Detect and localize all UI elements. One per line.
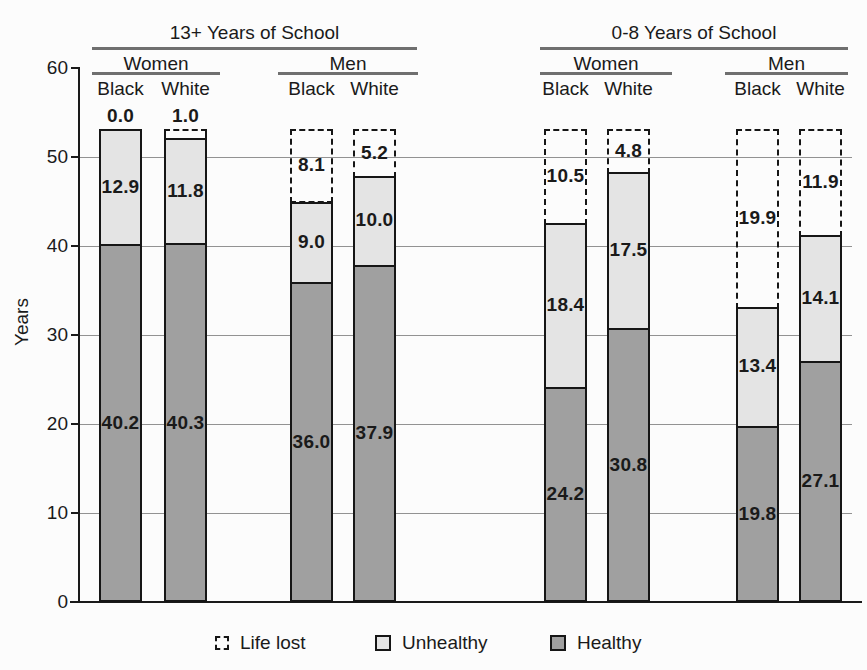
value-label-life-lost: 11.9: [786, 171, 856, 193]
value-label-healthy: 27.1: [786, 470, 856, 492]
race-label: White: [335, 78, 415, 100]
subgroup-label: Men: [725, 53, 848, 75]
value-label-healthy: 19.8: [723, 503, 793, 525]
value-label-healthy: 40.3: [151, 412, 221, 434]
y-tick-label-40: 40: [22, 235, 68, 257]
y-tick-label-60: 60: [22, 57, 68, 79]
value-label-healthy: 24.2: [531, 483, 601, 505]
y-tick-label-0: 0: [22, 591, 68, 613]
value-label-life-lost: 8.1: [277, 154, 347, 176]
legend-item-healthy: Healthy: [550, 632, 641, 654]
y-tick-label-10: 10: [22, 502, 68, 524]
value-label-life-lost: 19.9: [723, 207, 793, 229]
race-label: White: [781, 78, 861, 100]
value-label-unhealthy: 14.1: [786, 287, 856, 309]
value-label-unhealthy: 12.9: [86, 176, 156, 198]
value-label-unhealthy: 10.0: [340, 209, 410, 231]
group-title: 13+ Years of School: [92, 22, 417, 44]
y-tick-50: [71, 156, 80, 158]
value-label-life-lost: 0.0: [86, 105, 156, 127]
bar-segment-life-lost: [164, 129, 207, 140]
legend-item-unhealthy: Unhealthy: [375, 632, 488, 654]
y-tick-20: [71, 423, 80, 425]
subgroup-label: Men: [278, 53, 418, 75]
legend-label: Life lost: [240, 632, 305, 654]
healthy-legend-swatch-icon: [550, 635, 566, 651]
value-label-unhealthy: 18.4: [531, 294, 601, 316]
y-tick-30: [71, 334, 80, 336]
y-tick-60: [71, 67, 80, 69]
value-label-life-lost: 10.5: [531, 165, 601, 187]
value-label-life-lost: 4.8: [594, 140, 664, 162]
unhealthy-legend-swatch-icon: [375, 635, 391, 651]
race-label: White: [146, 78, 226, 100]
y-tick-40: [71, 245, 80, 247]
value-label-unhealthy: 17.5: [594, 239, 664, 261]
legend-item-life-lost: Life lost: [215, 632, 305, 654]
subgroup-label: Women: [92, 53, 220, 75]
figure-stacked-bar-chart: 010203040506013+ Years of SchoolWomenBla…: [0, 0, 867, 670]
value-label-life-lost: 1.0: [151, 105, 221, 127]
group-underline: [540, 47, 848, 50]
legend-label: Unhealthy: [402, 632, 488, 654]
legend-label: Healthy: [577, 632, 641, 654]
y-tick-label-50: 50: [22, 146, 68, 168]
value-label-healthy: 30.8: [594, 454, 664, 476]
subgroup-label: Women: [540, 53, 672, 75]
y-tick-10: [71, 512, 80, 514]
value-label-unhealthy: 11.8: [151, 180, 221, 202]
race-label: White: [589, 78, 669, 100]
value-label-unhealthy: 13.4: [723, 355, 793, 377]
y-axis-title: Years: [11, 298, 33, 346]
value-label-life-lost: 5.2: [340, 142, 410, 164]
y-tick-label-20: 20: [22, 413, 68, 435]
value-label-healthy: 40.2: [86, 412, 156, 434]
life-lost-legend-swatch-icon: [215, 636, 229, 650]
value-label-healthy: 36.0: [277, 431, 347, 453]
value-label-unhealthy: 9.0: [277, 231, 347, 253]
group-underline: [92, 47, 417, 50]
group-title: 0-8 Years of School: [540, 22, 848, 44]
value-label-healthy: 37.9: [340, 422, 410, 444]
